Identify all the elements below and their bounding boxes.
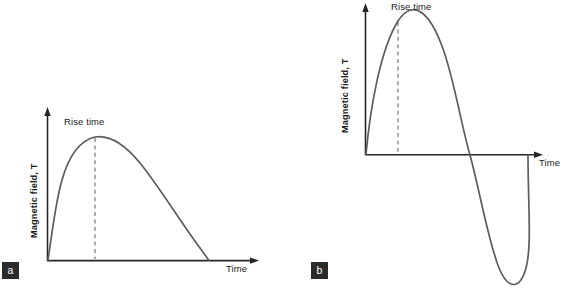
panel-a-curve [48,137,209,261]
panel-b-x-axis [365,152,543,158]
panel-a-plot [0,0,292,301]
panel-b-badge: b [311,262,328,279]
panel-b-rise-time-annotation: Rise time [391,2,432,12]
panel-b-plot [292,0,584,301]
panel-a: Magnetic field, T Time Rise time a [0,0,292,301]
panel-b-y-axis-label: Magnetic field, T [341,58,351,133]
panel-a-y-axis-label: Magnetic field, T [30,163,40,238]
panel-a-badge: a [2,262,19,279]
panel-b-curve [366,10,529,285]
panel-a-x-axis-label: Time [226,264,247,274]
figure-canvas: Magnetic field, T Time Rise time a Magne… [0,0,584,301]
panel-b-x-axis-label: Time [539,158,560,168]
panel-b: Magnetic field, T Time Rise time b [292,0,584,301]
panel-a-y-axis [44,107,50,261]
panel-a-rise-time-annotation: Rise time [64,117,105,127]
